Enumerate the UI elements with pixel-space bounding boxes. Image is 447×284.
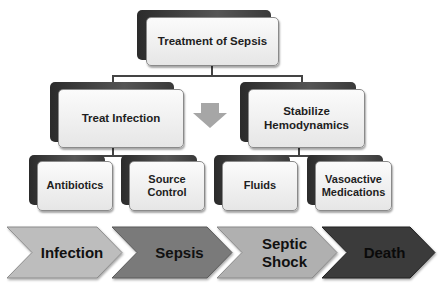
chevron-septic-shock-label: Septic Shock (242, 227, 327, 278)
stabilize-hemodynamics-label: Stabilize Hemodynamics (263, 105, 350, 133)
connector-right-down (298, 148, 300, 155)
source-control-label: Source Control (142, 173, 192, 199)
fluids-label: Fluids (244, 179, 276, 192)
connector-root-down (211, 66, 213, 75)
treat-infection-label: Treat Infection (82, 112, 161, 126)
chevron-infection-label: Infection (32, 227, 112, 278)
root-label: Treatment of Sepsis (158, 35, 267, 49)
chevron-sepsis-label: Sepsis (137, 227, 222, 278)
vasoactive-medications-label: Vasoactive Medications (319, 173, 388, 199)
chevron-death-label: Death (347, 227, 422, 278)
connector-root-horizontal (112, 75, 302, 77)
antibiotics-label: Antibiotics (47, 179, 104, 192)
connector-left-down (112, 148, 114, 155)
